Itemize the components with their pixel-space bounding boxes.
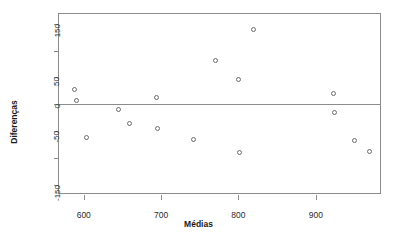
data-point bbox=[237, 150, 242, 155]
y-axis-title: Diferenças bbox=[9, 100, 19, 143]
data-point bbox=[127, 121, 132, 126]
x-axis-tick bbox=[84, 195, 85, 200]
data-point bbox=[251, 27, 256, 32]
y-axis-tick bbox=[54, 51, 59, 52]
x-axis-tick bbox=[316, 195, 317, 200]
plot-frame: -150-50050150600700800900 bbox=[58, 13, 381, 194]
y-axis-tick-label: 50 bbox=[53, 77, 62, 86]
data-point bbox=[155, 126, 160, 131]
y-axis-tick bbox=[54, 158, 59, 159]
data-point bbox=[213, 58, 218, 63]
data-point bbox=[191, 137, 196, 142]
x-axis-tick bbox=[161, 195, 162, 200]
scatter-plot-figure: -150-50050150600700800900 Diferenças Méd… bbox=[0, 0, 397, 243]
data-point bbox=[331, 91, 336, 96]
data-point bbox=[236, 77, 241, 82]
y-axis-tick-label: -150 bbox=[53, 185, 62, 201]
plot-area bbox=[59, 14, 380, 193]
y-axis-tick-label: 150 bbox=[53, 24, 62, 37]
data-point bbox=[352, 138, 357, 143]
data-point bbox=[116, 107, 121, 112]
data-point bbox=[332, 110, 337, 115]
y-axis-tick-label: 0 bbox=[53, 104, 62, 108]
data-point bbox=[72, 87, 77, 92]
data-point bbox=[74, 98, 79, 103]
data-point bbox=[84, 135, 89, 140]
x-axis-tick bbox=[238, 195, 239, 200]
y-axis-tick-label: -50 bbox=[53, 131, 62, 143]
x-axis-title: Médias bbox=[0, 219, 397, 229]
reference-line-zero bbox=[59, 104, 380, 105]
data-point bbox=[367, 149, 372, 154]
data-point bbox=[154, 95, 159, 100]
